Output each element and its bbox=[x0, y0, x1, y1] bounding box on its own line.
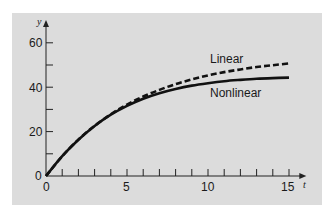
x-tick-10: 10 bbox=[201, 180, 214, 194]
x-tick-15: 15 bbox=[281, 180, 294, 194]
y-tick-0: 0 bbox=[35, 169, 42, 183]
x-tick-0: 0 bbox=[43, 180, 50, 194]
linear-annotation: Linear bbox=[210, 52, 243, 66]
y-tick-20: 20 bbox=[29, 125, 42, 139]
linear-series bbox=[46, 63, 289, 176]
axes bbox=[43, 20, 306, 179]
y-tick-60: 60 bbox=[29, 36, 42, 50]
y-tick-40: 40 bbox=[29, 81, 42, 95]
y-axis-label: y bbox=[37, 16, 41, 27]
x-tick-5: 5 bbox=[123, 180, 130, 194]
x-axis-label: t bbox=[303, 179, 306, 190]
nonlinear-annotation: Nonlinear bbox=[210, 86, 261, 100]
